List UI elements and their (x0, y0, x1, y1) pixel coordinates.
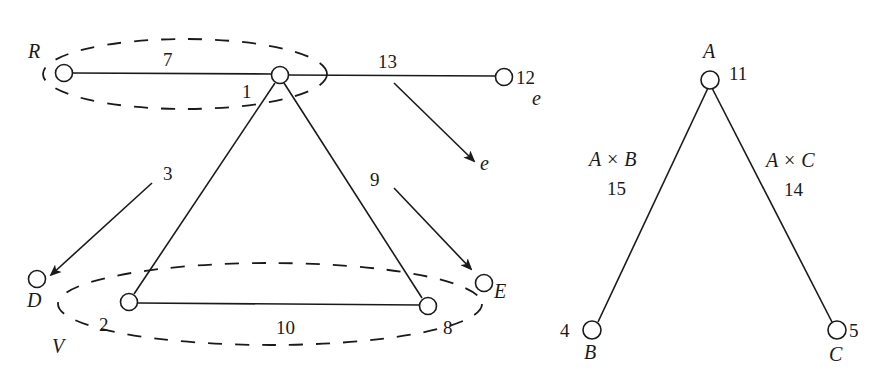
label-e-arrow: e (480, 152, 489, 174)
label-10: 10 (276, 317, 295, 338)
label-e-node: e (532, 87, 541, 109)
edge-1-12 (288, 75, 496, 76)
label-axc: A × C (764, 149, 815, 171)
arrow-3-d (51, 183, 152, 275)
label-13: 13 (378, 51, 397, 72)
label-12: 12 (516, 67, 535, 88)
label-axb: A × B (587, 148, 637, 170)
node-b (583, 321, 601, 339)
label-3: 3 (163, 163, 173, 184)
arrow-13-e (394, 83, 474, 161)
label-9: 9 (370, 169, 380, 190)
label-2: 2 (99, 314, 109, 335)
node-d (29, 271, 46, 288)
label-7: 7 (163, 49, 173, 70)
label-5: 5 (849, 320, 859, 341)
node-1 (272, 67, 289, 84)
label-a: A (701, 40, 716, 62)
diagram-canvas: R 7 1 13 12 e e 3 9 D E 2 10 8 V A 11 A … (0, 0, 884, 379)
label-1: 1 (242, 81, 252, 102)
label-15: 15 (607, 178, 626, 199)
node-8 (420, 298, 437, 315)
label-v: V (52, 335, 67, 357)
label-11: 11 (729, 63, 747, 84)
arrow-9-e (394, 188, 471, 269)
node-2 (121, 294, 138, 311)
node-c (828, 321, 846, 339)
node-r (56, 65, 73, 82)
node-a (701, 71, 719, 89)
label-14: 14 (784, 179, 804, 200)
label-e-big: E (493, 280, 506, 302)
label-r: R (27, 40, 40, 62)
label-c: C (829, 343, 843, 365)
edge-r-1 (72, 73, 272, 74)
edge-2-10-8 (138, 303, 420, 305)
label-d: D (26, 289, 42, 311)
label-8: 8 (443, 317, 453, 338)
edge-a-b (598, 88, 708, 322)
node-e-upper (476, 275, 493, 292)
edge-1-8 (284, 83, 422, 298)
label-b: B (584, 341, 596, 363)
label-4: 4 (560, 320, 570, 341)
node-12 (496, 69, 513, 86)
edge-a-c (712, 88, 832, 322)
